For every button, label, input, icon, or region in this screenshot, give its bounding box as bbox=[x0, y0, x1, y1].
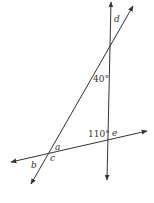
label-angle-110: 110° bbox=[88, 129, 110, 139]
label-angle-40: 40° bbox=[93, 74, 109, 84]
label-e: e bbox=[112, 128, 117, 138]
label-c: c bbox=[50, 153, 55, 163]
label-a: a bbox=[55, 142, 60, 152]
vertical-line bbox=[107, 2, 111, 180]
transversal-line bbox=[11, 131, 147, 162]
diagonal-line bbox=[31, 6, 133, 184]
geometry-diagram: d 40° 110° e a b c bbox=[0, 0, 154, 203]
label-b: b bbox=[31, 160, 37, 170]
label-d: d bbox=[114, 14, 120, 24]
